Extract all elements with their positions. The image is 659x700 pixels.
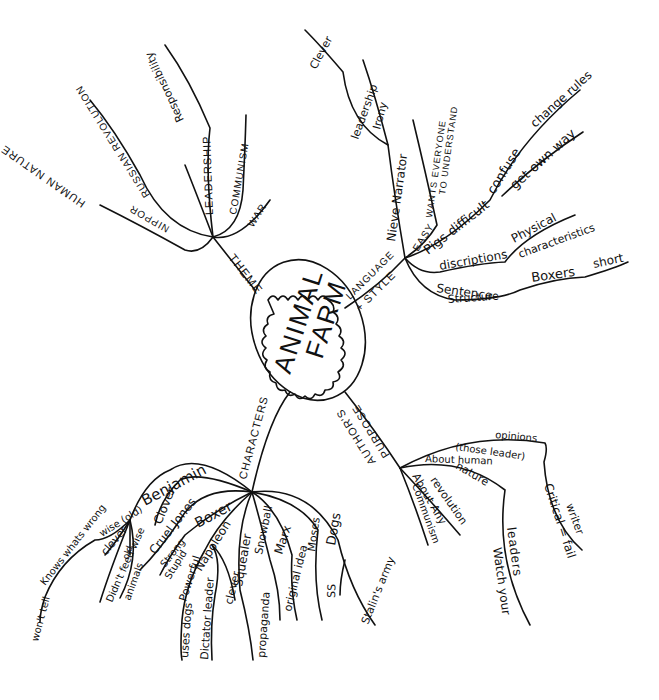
theme-label: THEME bbox=[226, 251, 266, 297]
branch-characters: CHARACTERS Benjamin wise (old) Knows wha… bbox=[29, 392, 398, 660]
char-benjamin-knows-whats-wrong: Knows whats wrong bbox=[38, 502, 108, 587]
char-snowball-original-idea: original idea bbox=[281, 543, 310, 612]
language-naive-narrator: Nieve Narrator bbox=[384, 153, 410, 242]
theme-war: WAR bbox=[245, 201, 268, 229]
char-moses: Moses bbox=[305, 516, 323, 552]
center-node: ANIMAL FARM bbox=[232, 244, 385, 417]
char-dogs-stalins-army: Stalin's army bbox=[359, 554, 398, 626]
char-dogs: Dogs bbox=[323, 511, 344, 546]
language-short: short bbox=[592, 251, 625, 271]
purpose-opinions: opinions bbox=[495, 429, 538, 444]
branch-language-style: LANGUAGE + STYLE Nieve Narrator Irony le… bbox=[305, 30, 628, 313]
char-squealer-propaganda: propaganda bbox=[255, 591, 273, 658]
language-change-rules: change rules bbox=[528, 68, 595, 130]
mind-map-canvas: ANIMAL FARM THEME HUMAN NATURE NIPPOR RU… bbox=[0, 0, 659, 700]
language-structure: Structure bbox=[447, 289, 499, 306]
language-descriptions: discriptions bbox=[438, 247, 508, 273]
theme-human-nature: HUMAN NATURE bbox=[0, 143, 87, 210]
char-dogs-ss: SS bbox=[325, 584, 338, 598]
char-benjamin-wont-tell: won't tell bbox=[29, 595, 52, 642]
theme-russian-revolution: RUSSIAN REVOLUTION bbox=[73, 83, 151, 199]
theme-communism: COMMUNISM bbox=[227, 142, 250, 216]
characters-label: CHARACTERS bbox=[236, 395, 270, 481]
language-clever: Clever bbox=[307, 34, 335, 72]
theme-responsibility: Responsibility bbox=[143, 49, 187, 124]
char-squealer: Squealer bbox=[231, 533, 254, 588]
branch-theme: THEME HUMAN NATURE NIPPOR RUSSIAN REVOLU… bbox=[0, 45, 270, 297]
char-napoleon-uses-dogs: uses dogs bbox=[178, 602, 195, 658]
theme-leadership: LEADERSHIP bbox=[200, 135, 215, 215]
char-napoleon-dictator-leader: Dictator leader bbox=[198, 577, 217, 661]
language-boxers: Boxers bbox=[530, 264, 576, 285]
